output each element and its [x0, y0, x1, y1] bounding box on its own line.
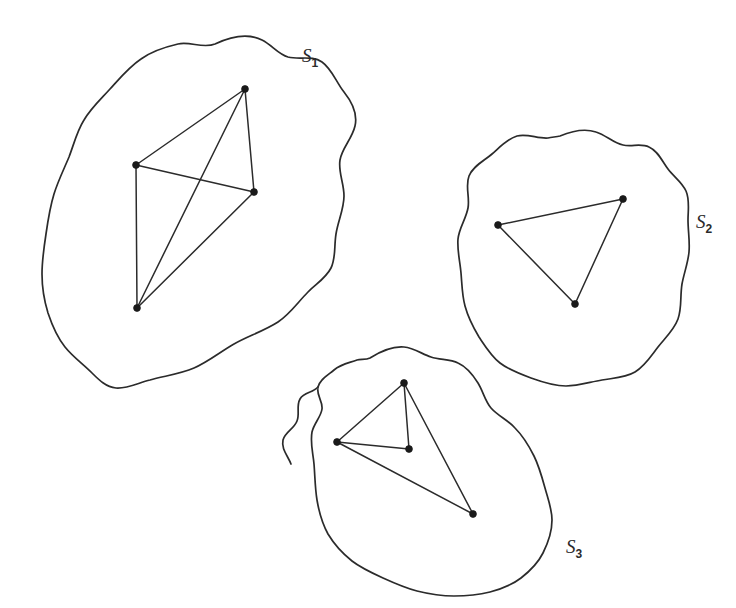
region-outline-s1 — [42, 36, 356, 388]
graph-vertex-s1-left — [133, 162, 140, 169]
region-group-s1: S1 — [42, 36, 356, 388]
graph-edge-s1-left-to-bottom — [136, 165, 137, 308]
region-label-s2-subscript: 2 — [706, 222, 713, 236]
region-label-s3-subscript: 3 — [576, 547, 583, 561]
region-label-s1-base: S — [302, 45, 312, 66]
region-group-s2: S2 — [458, 130, 713, 386]
graph-vertex-s3-middle — [406, 446, 413, 453]
region-outline-s2 — [458, 130, 689, 386]
graph-vertex-s2-left — [495, 222, 502, 229]
graph-vertex-s2-bottom — [572, 301, 579, 308]
graph-vertex-s1-right — [251, 189, 258, 196]
region-label-s2: S2 — [696, 211, 713, 236]
figure-svg: S1 S2 S3 — [0, 0, 736, 608]
region-label-s3: S3 — [566, 536, 583, 561]
region-label-s2-base: S — [696, 211, 706, 232]
region-label-s3-base: S — [566, 536, 576, 557]
graph-vertex-s3-left — [334, 439, 341, 446]
graph-vertex-s3-top — [401, 380, 408, 387]
figure-canvas: S1 S2 S3 — [0, 0, 736, 608]
region-label-s1-subscript: 1 — [312, 56, 319, 70]
graph-vertex-s1-bottom — [134, 305, 141, 312]
region-group-s3: S3 — [283, 347, 583, 596]
region-outline-s3 — [311, 347, 552, 596]
graph-vertex-s1-top — [242, 86, 249, 93]
graph-vertex-s3-bottom-right — [470, 511, 477, 518]
graph-vertex-s2-top-right — [620, 196, 627, 203]
